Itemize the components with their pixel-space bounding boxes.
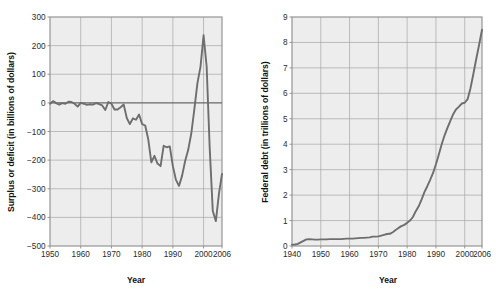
y-tick-label: 200 (32, 42, 46, 51)
surplus-deficit-line-chart: 1950196019701980199020002006 −500−400−30… (0, 0, 248, 292)
x-tick-label: 1970 (369, 250, 388, 259)
y-tick-label: 8 (283, 38, 288, 47)
x-tick-label: 1960 (340, 250, 359, 259)
chart-panel-surplus-deficit: 1950196019701980199020002006 −500−400−30… (0, 0, 248, 292)
y-tick-label: 9 (283, 13, 288, 22)
x-tick-label: 2006 (213, 250, 232, 259)
y-tick-label: 2 (283, 191, 288, 200)
right-y-axis-title: Federal debt (in trillions of dollars) (260, 61, 270, 202)
y-tick-label: −500 (27, 242, 46, 251)
y-tick-label: 6 (283, 89, 288, 98)
y-tick-label: 300 (32, 13, 46, 22)
y-tick-label: −200 (27, 156, 46, 165)
x-tick-label: 2000 (456, 250, 475, 259)
x-tick-label: 1970 (102, 250, 121, 259)
right-x-axis-title: Year (379, 275, 398, 285)
federal-debt-line-chart: 19401950196019701980199020002006 0123456… (248, 0, 496, 292)
y-tick-label: 1 (283, 217, 288, 226)
x-tick-label: 2000 (194, 250, 213, 259)
x-tick-label: 1960 (72, 250, 91, 259)
x-tick-label: 1990 (164, 250, 183, 259)
x-tick-label: 2006 (473, 250, 492, 259)
x-tick-label: 1980 (133, 250, 152, 259)
y-tick-label: −300 (27, 185, 46, 194)
y-tick-label: −100 (27, 128, 46, 137)
left-y-axis-title: Surplus or deficit (in billions of dolla… (6, 52, 16, 212)
y-tick-label: 100 (32, 70, 46, 79)
y-tick-label: 7 (283, 64, 288, 73)
x-tick-label: 1980 (398, 250, 417, 259)
y-tick-label: 0 (41, 99, 46, 108)
x-tick-label: 1940 (283, 250, 302, 259)
y-tick-label: 4 (283, 140, 288, 149)
x-tick-label: 1950 (312, 250, 331, 259)
two-chart-figure: 1950196019701980199020002006 −500−400−30… (0, 0, 496, 292)
x-tick-label: 1990 (427, 250, 446, 259)
chart-panel-federal-debt: 19401950196019701980199020002006 0123456… (248, 0, 496, 292)
y-tick-label: −400 (27, 213, 46, 222)
y-tick-label: 3 (283, 166, 288, 175)
x-tick-label: 1950 (41, 250, 60, 259)
y-tick-label: 5 (283, 115, 288, 124)
left-x-axis-title: Year (127, 275, 146, 285)
y-tick-label: 0 (283, 242, 288, 251)
